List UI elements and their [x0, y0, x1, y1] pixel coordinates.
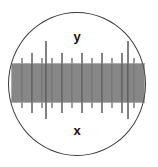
- reticle-view: y x: [0, 0, 158, 167]
- x-axis-label: x: [67, 124, 87, 137]
- y-axis-label: y: [67, 30, 87, 43]
- reticle-scale: [0, 0, 158, 167]
